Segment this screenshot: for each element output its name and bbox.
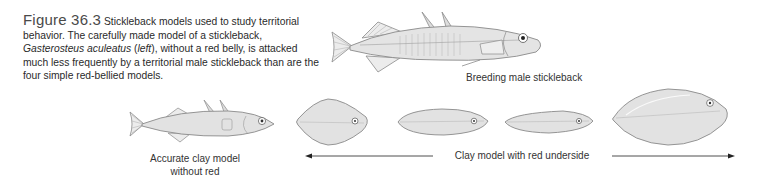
red-model-4-large-oval [610,87,730,147]
range-arrow-right [610,152,735,160]
figure-number: Figure 36.3 [23,11,101,28]
accurate-model-label: Accurate clay model without red [130,153,260,178]
accurate-model-label-line2: without red [130,166,260,179]
red-models-label: Clay model with red underside [436,150,608,163]
red-model-2-oval [396,107,490,137]
red-model-1-diamond [294,97,370,147]
breeding-male-stickleback-illustration [330,10,555,70]
accurate-clay-model-illustration [128,100,278,145]
red-model-3-slim-oval [503,109,595,135]
range-arrow-left [305,152,435,160]
figure-caption: Figure 36.3 Stickleback models used to s… [23,13,323,83]
species-name: Gasterosteus aculeatus [23,43,131,54]
left-label: left [137,43,151,54]
accurate-model-label-line1: Accurate clay model [130,153,260,166]
breeding-male-label: Breeding male stickleback [466,72,616,85]
